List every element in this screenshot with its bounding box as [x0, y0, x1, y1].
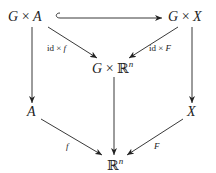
- node-G-times-X: G × X: [168, 10, 202, 24]
- symbol-R: ℝ: [117, 61, 129, 76]
- label-id-times-f: id × f: [47, 44, 66, 53]
- symbol-F: F: [154, 141, 160, 151]
- hook-arrow-GxA-to-GxX: [56, 13, 162, 18]
- node-G-times-Rn: G × ℝn: [92, 60, 133, 76]
- symbol-X: X: [187, 104, 196, 119]
- id-text: id: [47, 43, 54, 53]
- exponent-n: n: [129, 59, 134, 69]
- symbol-A: A: [33, 9, 42, 24]
- exponent-n: n: [119, 156, 124, 166]
- node-G-times-A: G × A: [8, 10, 42, 24]
- symbol-f: f: [64, 43, 67, 53]
- arrow-A-to-Rn: [41, 119, 102, 155]
- arrows-layer: [0, 0, 216, 173]
- times-symbol: ×: [102, 61, 117, 76]
- times-symbol: ×: [18, 9, 33, 24]
- times-symbol: ×: [54, 43, 64, 53]
- label-id-times-F: id × F: [149, 44, 171, 53]
- node-A: A: [27, 105, 36, 119]
- id-text: id: [149, 43, 156, 53]
- symbol-G: G: [168, 9, 178, 24]
- symbol-F: F: [166, 43, 172, 53]
- symbol-R: ℝ: [107, 158, 119, 173]
- times-symbol: ×: [178, 9, 193, 24]
- node-X: X: [187, 105, 196, 119]
- symbol-G: G: [8, 9, 18, 24]
- symbol-A: A: [27, 104, 36, 119]
- symbol-X: X: [193, 9, 202, 24]
- symbol-f: f: [66, 141, 69, 151]
- label-F: F: [154, 142, 160, 151]
- node-Rn: ℝn: [107, 157, 123, 173]
- symbol-G: G: [92, 61, 102, 76]
- times-symbol: ×: [156, 43, 166, 53]
- label-f: f: [66, 142, 69, 151]
